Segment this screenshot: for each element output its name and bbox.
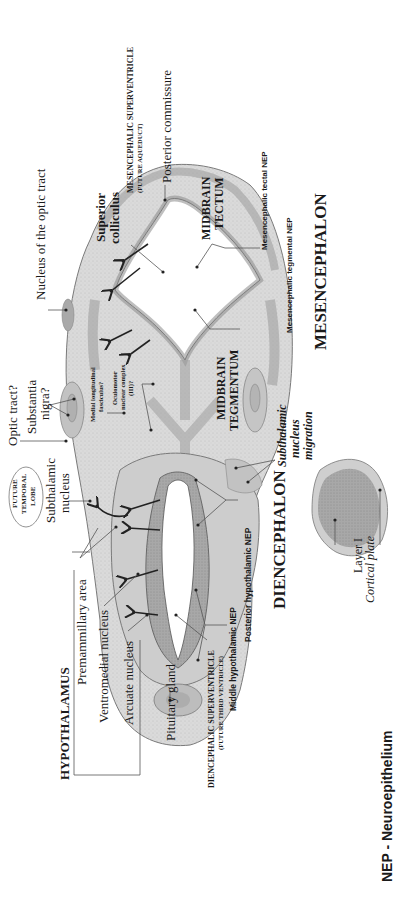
label-medial-longitudinal-1: Medial longitudinal — [90, 367, 97, 422]
label-pituitary-gland: Pituitary gland — [164, 664, 177, 741]
label-future-temporal-lobe-1: FUTURE — [12, 479, 19, 508]
label-subthalamic-nucleus-1: Subthalamic — [44, 458, 57, 523]
label-future-third-ventricle: (FUTURE THIRD VENTRICLE) — [218, 656, 225, 750]
label-medial-longitudinal-2: fasciculus? — [98, 382, 105, 412]
label-mesencephalic-tegmental-nep: Mesencephalic tegmental NEP — [286, 217, 294, 333]
label-mesencephalic-tectal-nep: Mesencephalic tectal NEP — [261, 151, 269, 250]
label-diencephalic-superventricle: DIENCEPHALIC SUPERVENTRICLE — [208, 650, 216, 788]
label-optic-tract: Optic tract? — [6, 385, 19, 446]
label-future-temporal-lobe-2: TEMPORAL — [21, 474, 28, 514]
label-hypothalamus: HYPOTHALAMUS — [58, 667, 71, 780]
label-cortical-plate: Cortical plate — [364, 536, 376, 603]
label-future-aqueduct: (FUTURE AQUEDUCT) — [137, 123, 144, 193]
label-posterior-hypothalamic-nep: Posterior hypothalamic NEP — [244, 528, 253, 642]
label-subthalamic-nucleus-2: nucleus — [58, 473, 71, 513]
label-future-temporal-lobe-3: LOBE — [30, 487, 37, 506]
label-midbrain-tegmentum-2: TEGMENTUM — [228, 350, 240, 431]
label-middle-hypothalamic-nep: Middle hypothalamic NEP — [229, 607, 238, 711]
label-posterior-commissure: Posterior commissure — [160, 70, 173, 183]
label-arcuate-nucleus: Arcuate nucleus — [122, 641, 135, 725]
label-ventromedial-nucleus: Ventromedial nucleus — [97, 610, 110, 723]
label-premammillary-area: Premammillary area — [75, 579, 88, 685]
label-mesencephalic-superventricle: MESENCEPHALIC SUPERVENTRICLE — [127, 47, 135, 193]
label-subthalamic-migration-3: migration — [302, 411, 314, 460]
label-superior-colliculus-1: Superior — [94, 193, 107, 242]
label-midbrain-tectum-2: TECTUM — [213, 177, 225, 230]
label-midbrain-tegmentum-1: MIDBRAIN — [215, 357, 227, 420]
label-oculomotor-1: Oculomotor — [112, 371, 119, 405]
label-diencephalon: DIENCEPHALON — [271, 470, 288, 609]
footnote-nep-definition: NEP - Neuroepithelium — [380, 731, 394, 882]
figure-stage: Nucleus of the optic tract Posterior com… — [0, 0, 406, 900]
label-midbrain-tectum-1: MIDBRAIN — [200, 177, 212, 240]
label-mesencephalon: MESENCEPHALON — [312, 193, 329, 350]
label-subthalamic-migration-2: nucleus — [289, 419, 301, 458]
label-subthalamic-migration-1: Subthalamic — [276, 404, 288, 467]
label-oculomotor-3: (III)? — [128, 381, 135, 396]
label-superior-colliculus-2: colliculus — [108, 192, 121, 244]
label-oculomotor-2: nuclear complex — [120, 364, 127, 410]
label-nucleus-optic-tract: Nucleus of the optic tract — [34, 169, 47, 300]
label-substantia-nigra-2: nigra? — [38, 388, 51, 420]
